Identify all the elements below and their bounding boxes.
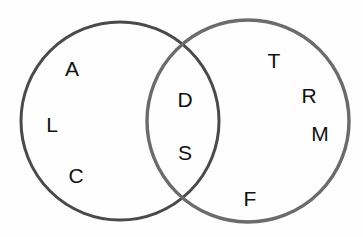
venn-label-intersection-1: S xyxy=(178,142,192,163)
venn-label-left-2: C xyxy=(68,165,83,186)
venn-label-right-2: M xyxy=(311,123,329,144)
venn-label-intersection-0: D xyxy=(177,89,192,110)
venn-label-right-0: T xyxy=(268,50,281,71)
venn-diagram-canvas: A L C D S T R M F xyxy=(0,0,363,237)
venn-label-left-1: L xyxy=(46,114,58,135)
venn-label-right-1: R xyxy=(301,85,316,106)
venn-label-right-3: F xyxy=(244,188,257,209)
venn-label-left-0: A xyxy=(65,58,79,79)
